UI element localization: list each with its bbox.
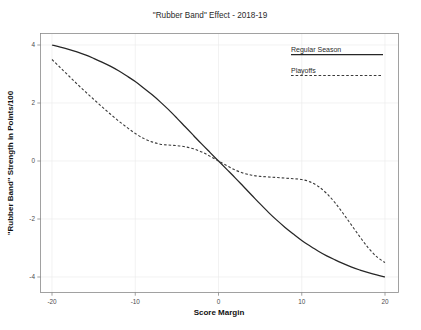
chart-title: "Rubber Band" Effect - 2018-19 xyxy=(153,11,268,20)
y-tick-label: -2 xyxy=(29,215,35,222)
legend-label-playoffs: Playoffs xyxy=(291,67,316,75)
y-tick-label: 4 xyxy=(31,41,35,48)
y-tick-label: 0 xyxy=(31,157,35,164)
y-tick-label: -4 xyxy=(29,273,35,280)
rubber-band-effect-chart: "Rubber Band" Effect - 2018-19 -20-10010… xyxy=(0,0,421,330)
y-tick-label: 2 xyxy=(31,99,35,106)
x-tick-label: 10 xyxy=(298,298,306,305)
y-axis-label: "Rubber Band" Strength in Points/100 xyxy=(6,90,15,235)
chart-container: "Rubber Band" Effect - 2018-19 -20-10010… xyxy=(0,0,421,330)
x-tick-label: -10 xyxy=(131,298,141,305)
x-tick-label: 20 xyxy=(381,298,389,305)
x-axis-label: Score Margin xyxy=(194,308,245,317)
chart-background xyxy=(0,0,421,330)
x-tick-label: 0 xyxy=(217,298,221,305)
x-tick-label: -20 xyxy=(47,298,57,305)
legend-label-regular-season: Regular Season xyxy=(291,46,341,54)
